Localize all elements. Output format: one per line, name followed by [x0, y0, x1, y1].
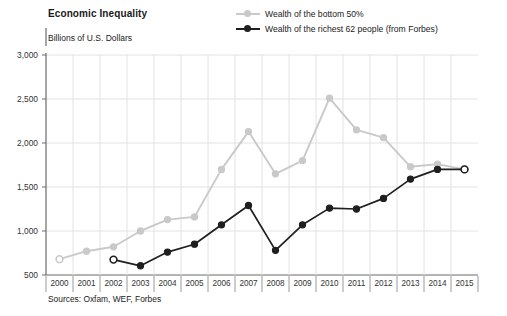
source-note: Sources: Oxfam, WEF, Forbes [48, 294, 161, 304]
x-tick-label: 2015 [451, 279, 478, 288]
y-tick-label: 2,500 [4, 94, 38, 104]
x-tick-label: 2000 [46, 279, 73, 288]
y-tick-label: 1,500 [4, 182, 38, 192]
y-tick-label: 2,000 [4, 138, 38, 148]
x-tick-label: 2003 [127, 279, 154, 288]
plot-area [0, 0, 507, 316]
x-tick-label: 2009 [289, 279, 316, 288]
x-tick-label: 2006 [208, 279, 235, 288]
x-tick-label: 2012 [370, 279, 397, 288]
x-tick-label: 2001 [73, 279, 100, 288]
economic-inequality-chart: Economic Inequality Billions of U.S. Dol… [0, 0, 507, 316]
y-tick-label: 500 [4, 270, 38, 280]
x-tick-label: 2010 [316, 279, 343, 288]
x-tick-label: 2002 [100, 279, 127, 288]
x-tick-label: 2013 [397, 279, 424, 288]
y-tick-label: 1,000 [4, 226, 38, 236]
x-tick-label: 2007 [235, 279, 262, 288]
x-tick-label: 2004 [154, 279, 181, 288]
x-tick-label: 2008 [262, 279, 289, 288]
x-tick-label: 2011 [343, 279, 370, 288]
x-tick-label: 2005 [181, 279, 208, 288]
x-tick-label: 2014 [424, 279, 451, 288]
y-tick-label: 3,000 [4, 50, 38, 60]
